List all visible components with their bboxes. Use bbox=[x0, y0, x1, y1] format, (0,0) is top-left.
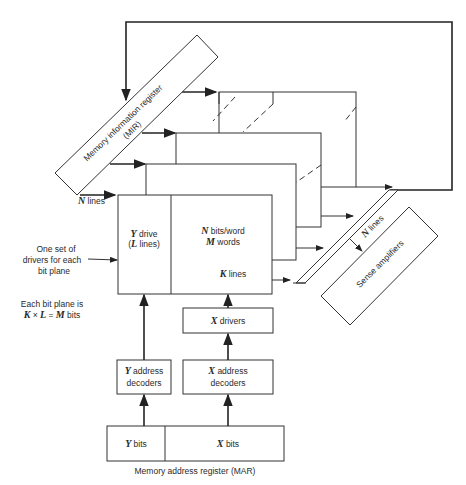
mar-x-bits: X bits bbox=[216, 438, 239, 449]
note-drivers-1: One set of bbox=[36, 244, 76, 254]
note-drivers-arrow bbox=[88, 259, 117, 260]
mir-label: Memory information register bbox=[81, 82, 164, 163]
plane-words: M words bbox=[205, 236, 240, 247]
note-plane-2: K × L = M bits bbox=[23, 309, 81, 320]
x-decoders-label-1: X address bbox=[207, 365, 247, 376]
y-decoders-label-2: decoders bbox=[127, 378, 162, 388]
mar-caption: Memory address register (MAR) bbox=[135, 466, 256, 476]
x-decoders-label-2: decoders bbox=[211, 378, 246, 388]
y-decoders-label-1: Y address bbox=[125, 365, 164, 376]
note-plane-1: Each bit plane is bbox=[21, 299, 83, 309]
x-drivers-label: X drivers bbox=[210, 315, 246, 326]
memory-organization-diagram: Memory information register (MIR) Sense … bbox=[0, 0, 466, 485]
n-lines-label: N lines bbox=[77, 195, 105, 206]
note-drivers-3: bit plane bbox=[38, 266, 70, 276]
y-drive-lines-label: (L lines) bbox=[128, 238, 160, 249]
k-lines-label: K lines bbox=[219, 268, 247, 279]
note-drivers-2: drivers for each bbox=[23, 255, 82, 265]
plane-bits-per-word: N bits/word bbox=[200, 225, 245, 236]
sense-n-lines-arrow bbox=[349, 238, 362, 251]
mar-y-bits: Y bits bbox=[125, 438, 147, 449]
sense-amplifiers: Sense amplifiers N lines bbox=[321, 207, 438, 325]
